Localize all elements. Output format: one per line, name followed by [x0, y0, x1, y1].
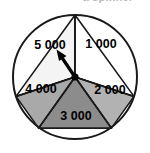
- spinner-figure: a spinner 5 000 1 000 2: [0, 0, 150, 153]
- spinner-label-3000: 3 000: [60, 109, 91, 123]
- spinner-label-2000: 2 000: [94, 83, 125, 97]
- spinner-label-4000: 4 000: [25, 82, 56, 96]
- spinner-label-5000: 5 000: [34, 38, 65, 52]
- spinner-wheel-graphic: 5 000 1 000 2 000 3 000 4 000: [0, 0, 150, 153]
- spinner-label-1000: 1 000: [85, 37, 116, 51]
